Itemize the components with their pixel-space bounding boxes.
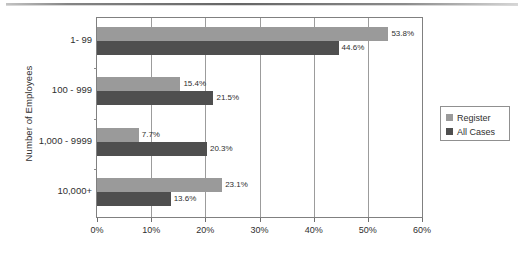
bar-register (97, 128, 139, 142)
y-axis-category-label: 100 - 999 (8, 84, 92, 95)
y-axis-tick (94, 119, 97, 120)
y-axis-category-label: 1- 99 (8, 34, 92, 45)
x-axis-tick (97, 218, 98, 222)
y-axis-tick (94, 169, 97, 170)
bar-register (97, 77, 180, 91)
legend-label: All Cases (457, 127, 495, 137)
y-axis-category-label: 10,000+ (8, 185, 92, 196)
y-axis-tick (94, 68, 97, 69)
legend-entry: All Cases (446, 125, 509, 138)
plot-area: 53.8%44.6%15.4%21.5%7.7%20.3%23.1%13.6% (96, 17, 423, 218)
x-axis-tick-label: 60% (413, 225, 431, 235)
bar-value-label: 13.6% (174, 194, 197, 203)
y-axis-category-labels: 1- 99100 - 9991,000 - 999910,000+ (5, 17, 92, 218)
bar-value-label: 21.5% (216, 93, 239, 102)
x-axis-tick-label: 50% (359, 225, 377, 235)
x-axis-tick (205, 218, 206, 222)
x-axis-tick (368, 218, 369, 222)
bar-all-cases (97, 91, 213, 105)
bar-value-label: 23.1% (225, 180, 248, 189)
bar-value-label: 53.8% (391, 29, 414, 38)
legend-swatch-icon (446, 128, 453, 135)
bar-all-cases (97, 142, 207, 156)
bar-all-cases (97, 192, 171, 206)
chart-legend: RegisterAll Cases (440, 106, 510, 141)
x-axis-tick (151, 218, 152, 222)
x-axis-tick-label: 0% (90, 225, 103, 235)
bar-value-label: 44.6% (342, 43, 365, 52)
legend-swatch-icon (446, 114, 453, 121)
x-axis-tick-label: 40% (305, 225, 323, 235)
legend-entry: Register (446, 111, 509, 124)
x-axis-tick (422, 218, 423, 222)
bar-register (97, 178, 222, 192)
bar-all-cases (97, 41, 339, 55)
legend-label: Register (457, 113, 491, 123)
bar-value-label: 7.7% (142, 130, 160, 139)
gridline (368, 18, 369, 217)
x-axis-tick (260, 218, 261, 222)
bar-register (97, 27, 388, 41)
bar-value-label: 20.3% (210, 144, 233, 153)
x-axis-tick (314, 218, 315, 222)
x-axis-tick-label: 20% (196, 225, 214, 235)
x-axis: 0%10%20%30%40%50%60% (96, 218, 423, 244)
bar-chart-figure: Number of Employees 1- 99100 - 9991,000 … (0, 0, 521, 258)
x-axis-tick-label: 10% (142, 225, 160, 235)
x-axis-tick-label: 30% (250, 225, 268, 235)
bar-value-label: 15.4% (183, 79, 206, 88)
y-axis-category-label: 1,000 - 9999 (8, 135, 92, 146)
